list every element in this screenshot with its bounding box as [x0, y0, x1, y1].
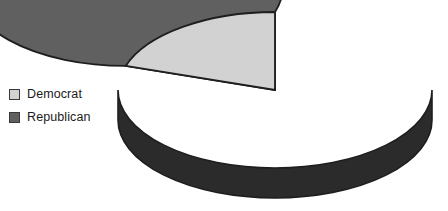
legend-item-republican[interactable]: Republican	[9, 107, 114, 127]
pie-3d-side-wall	[118, 90, 432, 198]
pie-chart-figure: Democrat Republican	[0, 0, 448, 211]
chart-legend: Democrat Republican	[9, 84, 114, 130]
legend-item-democrat[interactable]: Democrat	[9, 84, 114, 104]
pie-top-face	[0, 0, 283, 90]
legend-label-democrat: Democrat	[27, 88, 82, 101]
legend-swatch-democrat	[9, 89, 20, 100]
legend-swatch-republican	[9, 112, 20, 123]
legend-label-republican: Republican	[27, 111, 91, 124]
republican-side-face	[118, 90, 432, 198]
